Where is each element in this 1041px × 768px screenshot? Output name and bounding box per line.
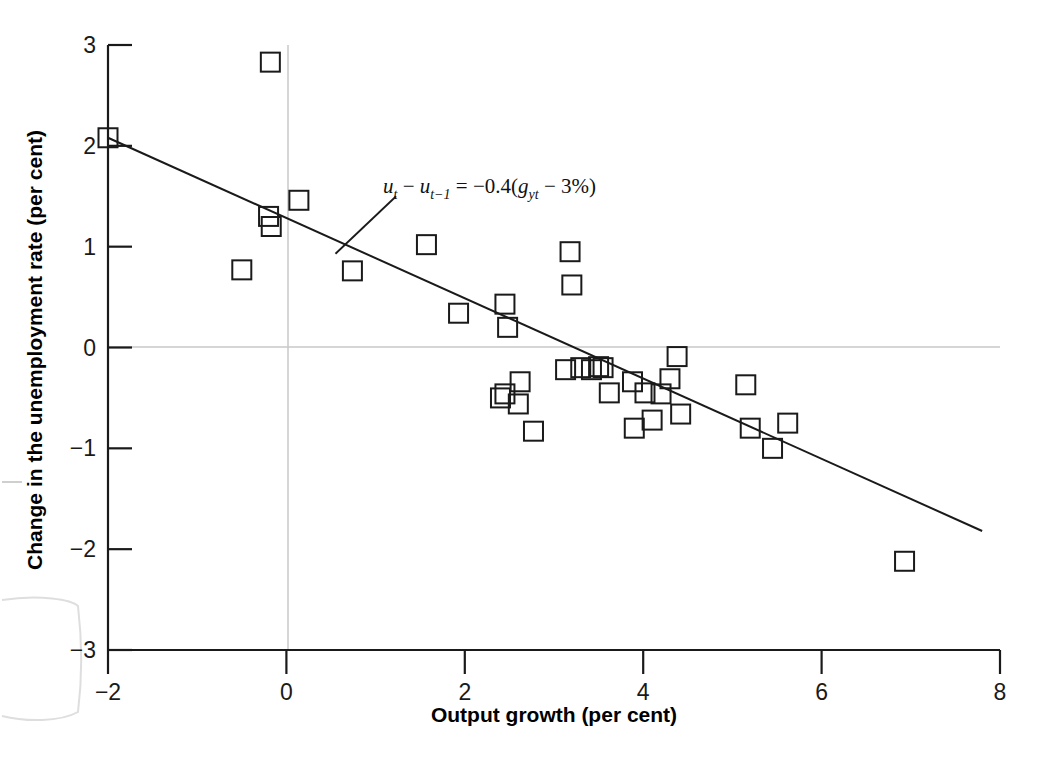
data-point-marker (643, 411, 662, 430)
y-tick-label: 1 (83, 234, 96, 260)
y-tick-label: −2 (70, 536, 96, 562)
y-tick-label: −1 (70, 435, 96, 461)
x-tick-label: 0 (280, 679, 293, 705)
data-point-marker (736, 375, 755, 394)
x-tick-label: 6 (815, 679, 828, 705)
x-tick-label: 4 (637, 679, 650, 705)
data-point-marker (524, 422, 543, 441)
y-tick-label: 0 (83, 335, 96, 361)
y-tick-label: −3 (70, 637, 96, 663)
data-point-marker (625, 419, 644, 438)
data-point-marker (668, 347, 687, 366)
x-axis-ticks: −202468 (95, 650, 1007, 705)
y-tick-label: 3 (83, 32, 96, 58)
x-tick-label: −2 (95, 679, 121, 705)
y-tick-label: 2 (83, 133, 96, 159)
data-point-marker (763, 439, 782, 458)
x-tick-label: 8 (994, 679, 1007, 705)
data-point-marker (741, 419, 760, 438)
data-point-marker (895, 552, 914, 571)
data-point-marker (778, 414, 797, 433)
data-point-marker (232, 260, 251, 279)
okun-law-scatter-figure: 3210−1−2−3 −202468 ut − ut−1 = −0.4(gyt … (0, 0, 1041, 768)
data-points (99, 53, 915, 571)
data-point-marker (343, 261, 362, 280)
data-point-marker (623, 372, 642, 391)
regression-equation-annotation: ut − ut−1 = −0.4(gyt − 3%) (383, 174, 596, 202)
data-point-marker (561, 242, 580, 261)
data-point-marker (491, 388, 510, 407)
y-axis-ticks: 3210−1−2−3 (70, 32, 132, 663)
data-point-marker (495, 295, 514, 314)
y-axis-title: Change in the unemployment rate (per cen… (23, 130, 46, 570)
data-point-marker (289, 191, 308, 210)
data-point-marker (600, 383, 619, 402)
data-point-marker (449, 304, 468, 323)
chart-canvas: 3210−1−2−3 −202468 ut − ut−1 = −0.4(gyt … (0, 0, 1041, 768)
data-point-marker (562, 275, 581, 294)
x-tick-label: 2 (458, 679, 471, 705)
zero-gridlines (108, 45, 1000, 650)
data-point-marker (417, 235, 436, 254)
annotation-leader-line (335, 196, 396, 253)
data-point-marker (261, 53, 280, 72)
data-point-marker (671, 405, 690, 424)
x-axis-title: Output growth (per cent) (431, 703, 677, 726)
